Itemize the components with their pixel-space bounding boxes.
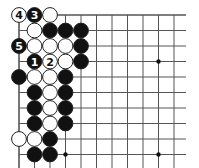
black-stone [58, 116, 73, 131]
black-stone [58, 70, 73, 85]
black-stone [43, 132, 58, 147]
white-stone [43, 39, 58, 54]
white-stone [43, 8, 58, 23]
white-stone [43, 85, 58, 100]
black-stone [74, 39, 89, 54]
white-stone [43, 116, 58, 131]
black-stone [43, 23, 58, 38]
black-stone [58, 85, 73, 100]
move-number-label: 3 [31, 9, 39, 22]
move-number-label: 1 [31, 56, 39, 69]
star-point-icon [63, 152, 67, 156]
black-stone [58, 23, 73, 38]
black-stone: 1 [27, 54, 42, 69]
white-stone: 2 [43, 54, 58, 69]
black-stone [58, 101, 73, 116]
white-stone [27, 23, 42, 38]
move-number-label: 5 [15, 40, 23, 53]
black-stone [27, 85, 42, 100]
black-stone: 5 [12, 39, 27, 54]
black-stone [74, 23, 89, 38]
white-stone [43, 101, 58, 116]
star-point-icon [156, 59, 160, 63]
white-stone [43, 70, 58, 85]
white-stone: 4 [12, 8, 27, 23]
star-point-icon [156, 152, 160, 156]
white-stone [58, 39, 73, 54]
black-stone [27, 116, 42, 131]
go-board: 43512 [0, 0, 199, 168]
white-stone [27, 39, 42, 54]
move-number-label: 2 [46, 56, 54, 69]
white-stone [12, 132, 27, 147]
black-stone: 3 [27, 8, 42, 23]
black-stone [12, 70, 27, 85]
black-stone [27, 147, 42, 162]
black-stone [27, 101, 42, 116]
move-number-label: 4 [15, 9, 23, 22]
white-stone [27, 132, 42, 147]
black-stone [43, 147, 58, 162]
white-stone [58, 54, 73, 69]
white-stone [27, 70, 42, 85]
black-stone [74, 54, 89, 69]
